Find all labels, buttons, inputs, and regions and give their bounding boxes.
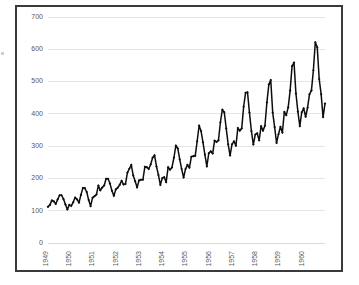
x-tick-label: 1953: [135, 251, 142, 267]
data-point-marker: [322, 116, 325, 119]
x-tick-label: 1960: [298, 251, 305, 267]
left-edge-artifact: [1, 52, 4, 55]
y-axis-tick-labels: 0100200300400500600700: [31, 13, 43, 246]
data-point-marker: [242, 105, 245, 108]
data-series-line: [48, 42, 325, 209]
data-point-marker: [320, 93, 323, 96]
x-tick-label: 1959: [274, 251, 281, 267]
data-point-marker: [206, 165, 209, 168]
x-tick-label: 1949: [42, 251, 49, 267]
data-point-marker: [204, 153, 207, 156]
x-tick-label: 1950: [65, 251, 72, 267]
data-point-marker: [219, 121, 222, 124]
y-tick-label: 200: [31, 174, 43, 181]
data-point-marker: [297, 110, 300, 113]
x-axis-tick-labels: 1949195019511952195319541955195619571958…: [42, 251, 305, 267]
data-point-marker: [318, 78, 321, 81]
y-tick-label: 500: [31, 77, 43, 84]
x-tick-label: 1954: [158, 251, 165, 267]
y-tick-label: 300: [31, 142, 43, 149]
x-tick-label: 1957: [228, 251, 235, 267]
data-series-markers: [47, 41, 327, 211]
data-point-marker: [266, 101, 269, 104]
y-tick-label: 700: [31, 13, 43, 20]
line-chart-svg: 0100200300400500600700 19491950195119521…: [17, 7, 341, 270]
x-tick-label: 1958: [251, 251, 258, 267]
data-point-marker: [295, 92, 298, 95]
x-tick-label: 1956: [205, 251, 212, 267]
data-point-marker: [312, 69, 315, 72]
x-tick-label: 1952: [112, 251, 119, 267]
data-point-marker: [299, 125, 302, 128]
y-tick-label: 600: [31, 45, 43, 52]
y-tick-label: 0: [39, 239, 43, 246]
chart-container: 0100200300400500600700 19491950195119521…: [0, 0, 359, 285]
y-tick-label: 100: [31, 207, 43, 214]
data-point-marker: [250, 130, 253, 133]
x-tick-label: 1955: [181, 251, 188, 267]
data-point-marker: [324, 102, 327, 105]
gridlines: [48, 17, 325, 243]
data-point-marker: [289, 89, 292, 92]
data-point-marker: [273, 126, 276, 129]
y-tick-label: 400: [31, 110, 43, 117]
x-tick-label: 1951: [88, 251, 95, 267]
chart-plot-frame: 0100200300400500600700 19491950195119521…: [15, 5, 343, 272]
data-point-marker: [225, 127, 228, 130]
data-point-marker: [196, 140, 199, 143]
